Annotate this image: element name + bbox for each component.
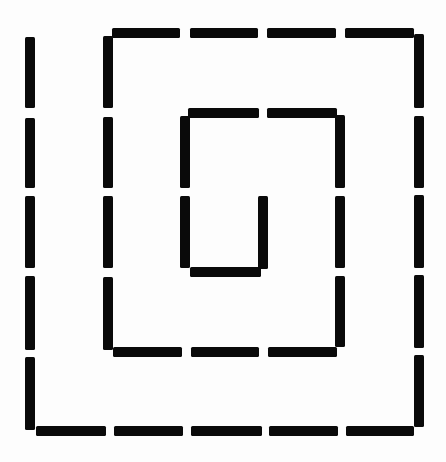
dash (258, 196, 268, 269)
spiral-segment-middle-top (112, 28, 414, 38)
spiral-diagram (0, 0, 446, 462)
dash (180, 196, 190, 268)
spiral-segment-inner-top (188, 108, 337, 118)
dash (103, 277, 113, 350)
spiral-segment-outer-bottom (36, 426, 414, 436)
dash (190, 267, 261, 277)
dash (267, 108, 337, 118)
spiral-segment-inner-left (180, 116, 190, 268)
dash (25, 357, 35, 430)
dash (268, 347, 337, 357)
spiral-segment-inner-bottom (190, 267, 261, 277)
dash (345, 28, 414, 38)
dash (414, 275, 424, 348)
dash (191, 426, 262, 436)
dash (103, 117, 113, 188)
spiral-segment-middle-bottom (113, 347, 337, 357)
spiral-svg (0, 0, 446, 462)
spiral-segment-outer-right (414, 34, 424, 427)
dash (113, 347, 182, 357)
dash (267, 28, 336, 38)
dash (191, 347, 259, 357)
spiral-segment-outer-left (25, 37, 35, 430)
dash (414, 34, 424, 108)
dash (188, 108, 259, 118)
dash (25, 196, 35, 268)
spiral-segment-middle-right (335, 115, 345, 347)
spiral-segment-inner-right (258, 196, 268, 269)
dash (112, 28, 180, 38)
dash (346, 426, 414, 436)
dash (114, 426, 183, 436)
dash (335, 276, 345, 347)
dash (335, 115, 345, 188)
dash (190, 28, 258, 38)
dash (103, 196, 113, 268)
dash (103, 36, 113, 108)
dash (25, 37, 35, 108)
dash (36, 426, 106, 436)
dash (180, 116, 190, 188)
dash (414, 195, 424, 268)
spiral-segment-middle-left (103, 36, 113, 350)
dash (414, 116, 424, 188)
dash (414, 355, 424, 427)
dash (25, 276, 35, 350)
dash (25, 118, 35, 188)
dash (269, 426, 338, 436)
dash (335, 196, 345, 268)
